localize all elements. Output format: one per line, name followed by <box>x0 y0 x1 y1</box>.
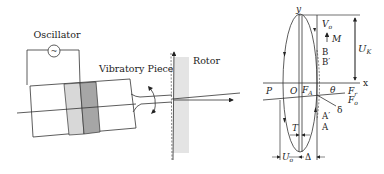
oscillator-symbol: ~ <box>51 47 58 56</box>
label-U-o: Uo <box>282 152 294 163</box>
oscillator-circuit: ~ Oscillator <box>27 29 81 85</box>
label-P: P <box>265 86 273 96</box>
label-T: T <box>292 123 299 133</box>
label-V-o: Vo <box>322 19 333 30</box>
transducer-body <box>17 79 136 137</box>
x-axis-label: x <box>363 78 368 88</box>
diagram: ~ Oscillator Vibratory Piece Rotor <box>0 0 384 174</box>
oscillator-label: Oscillator <box>34 29 81 40</box>
rotor-label: Rotor <box>193 55 220 66</box>
label-B: B <box>322 47 328 57</box>
label-delta: δ <box>337 105 342 115</box>
label-theta: θ <box>330 85 336 95</box>
label-B-prime: B′ <box>322 57 330 67</box>
label-M: M <box>331 34 342 44</box>
label-F-A: FA <box>301 85 313 96</box>
label-Delta: Δ <box>305 152 311 162</box>
label-O: O <box>290 86 298 96</box>
label-A: A <box>321 122 329 132</box>
label-A-prime: A′ <box>321 111 330 121</box>
diagram-svg: ~ Oscillator Vibratory Piece Rotor <box>0 0 384 174</box>
vibration-arrow-icon <box>150 88 155 113</box>
rotor: Rotor <box>171 52 240 160</box>
y-axis-label: y <box>295 4 302 14</box>
label-U-K: UK <box>358 43 372 56</box>
vibratory-piece-label: Vibratory Piece <box>98 63 174 74</box>
ellipse-diagram: y x P O FA θ Fr Fo δ Vo M B B′ A′ A UK T… <box>263 4 372 163</box>
